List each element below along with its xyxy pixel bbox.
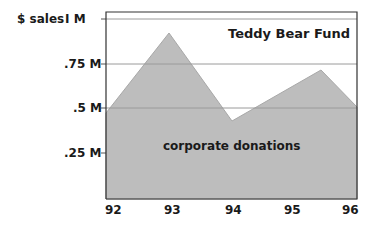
ytick-label-05m: .5 M [73, 101, 102, 115]
series-annotation: corporate donations [163, 139, 300, 153]
y-axis-title: $ sales [17, 12, 64, 26]
ytick-label-075m: .75 M [64, 57, 101, 71]
xtick-label-95: 95 [284, 203, 301, 217]
xtick-label-93: 93 [164, 203, 181, 217]
xtick-label-94: 94 [225, 203, 242, 217]
ytick-label-1m: I M [65, 12, 86, 26]
chart-title: Teddy Bear Fund [228, 26, 350, 41]
xtick-label-92: 92 [105, 203, 122, 217]
ytick-label-025m: .25 M [64, 146, 101, 160]
xtick-label-96: 96 [342, 203, 359, 217]
area-series-corporate-donations [106, 33, 357, 199]
